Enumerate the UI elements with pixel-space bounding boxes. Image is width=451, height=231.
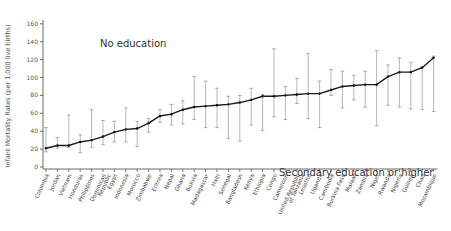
data-point [375,83,377,85]
x-tick-label: Haiti [210,172,221,187]
data-point [147,122,149,124]
y-tick-label: 80 [30,91,38,98]
data-point [45,147,47,149]
y-tick-label: 20 [30,145,38,152]
data-point [330,89,332,91]
x-tick-label: Eritrea [151,173,164,192]
x-tick-label: Colombia [33,173,50,199]
annotation-secondary-education: Secondary education or higher [279,167,434,178]
data-point [182,109,184,111]
data-point [284,94,286,96]
chart: 020406080100120140160 ColombiaJordanViet… [0,0,451,231]
data-point [204,105,206,107]
annotation-no-education: No education [100,38,166,49]
data-point [125,128,127,130]
data-point [216,104,218,106]
data-point [90,139,92,141]
data-point [318,92,320,94]
data-point [273,95,275,97]
data-point [159,115,161,117]
data-point [250,99,252,101]
data-point [113,131,115,133]
data-point [193,106,195,108]
data-point [56,144,58,146]
data-point [102,135,104,137]
y-axis-label: Infant Mortality Rates (per 1,000 live b… [4,24,12,167]
data-point [79,141,81,143]
data-point [307,92,309,94]
y-tick-label: 120 [27,56,39,63]
data-point [239,101,241,103]
data-point [296,93,298,95]
y-tick-label: 60 [30,109,38,116]
data-point [398,71,400,73]
data-point [136,127,138,129]
data-point [227,103,229,105]
data-point [432,57,434,59]
y-tick-label: 140 [27,38,39,45]
data-point [261,95,263,97]
data-point [353,84,355,86]
data-point [170,113,172,115]
data-point [341,85,343,87]
y-tick-label: 0 [34,163,38,170]
data-point [410,71,412,73]
data-point [68,144,70,146]
data-point [421,66,423,68]
data-point [364,83,366,85]
y-axis: 020406080100120140160 [27,20,43,170]
y-tick-label: 40 [30,127,38,134]
data-point [387,75,389,77]
y-tick-label: 100 [27,74,39,81]
y-tick-label: 160 [27,20,39,27]
